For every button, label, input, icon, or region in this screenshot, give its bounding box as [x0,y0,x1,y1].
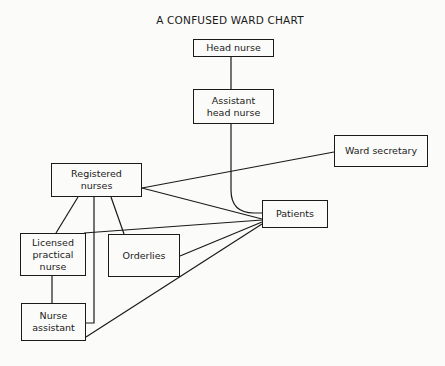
node-licensed-practical-nurse: Licensed practical nurse [20,233,86,276]
node-label: Head nurse [206,42,261,54]
edge-rn-secretary [142,152,334,188]
node-label: Licensed practical nurse [32,237,74,273]
edge-rn-patients [142,188,262,219]
node-label: Nurse assistant [32,310,75,334]
node-nurse-assistant: Nurse assistant [21,303,86,341]
edge-lpn-patients [84,220,262,233]
edge-rn-lpn [56,197,78,233]
node-assistant-head-nurse: Assistant head nurse [193,89,274,124]
node-head-nurse: Head nurse [193,39,274,57]
edge-rn-orderlies [111,197,124,234]
node-label: Orderlies [122,250,165,262]
node-ward-secretary: Ward secretary [334,135,428,167]
edge-rn-assistant [86,197,94,323]
node-registered-nurses: Registered nurses [51,163,142,197]
node-patients: Patients [262,200,328,228]
node-orderlies: Orderlies [108,234,180,277]
node-label: Registered nurses [71,168,122,192]
node-label: Ward secretary [345,145,417,157]
node-label: Patients [276,208,314,220]
node-label: Assistant head nurse [207,95,260,119]
